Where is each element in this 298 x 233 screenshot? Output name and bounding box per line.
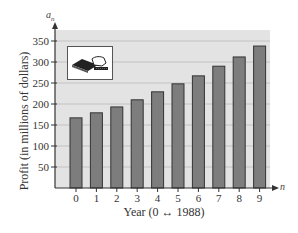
- y-axis-title: Profit (in millions of dollars): [17, 52, 32, 191]
- bar: [172, 84, 184, 188]
- x-tick-label: 6: [196, 192, 202, 204]
- bar: [213, 66, 225, 188]
- y-axis-arrow-icon: [52, 22, 58, 29]
- x-axis-arrow-icon: [272, 185, 279, 191]
- x-tick-label: 9: [257, 192, 263, 204]
- x-tick-label: 2: [114, 192, 120, 204]
- bar: [70, 118, 82, 188]
- bar-chart: 501001502002503003500123456789 an n Prof…: [0, 0, 298, 233]
- plot-area: 501001502002503003500123456789: [0, 0, 298, 233]
- x-axis-symbol: n: [280, 181, 285, 192]
- x-tick-label: 5: [175, 192, 181, 204]
- x-tick-label: 3: [134, 192, 140, 204]
- hand-inserting-card-icon: [68, 47, 112, 79]
- bar: [254, 46, 266, 188]
- x-tick-label: 4: [155, 192, 161, 204]
- x-tick-label: 0: [73, 192, 79, 204]
- y-tick-label: 250: [33, 77, 50, 89]
- x-axis-title: Year (0 ↔ 1988): [123, 205, 204, 220]
- y-axis-symbol: an: [46, 9, 55, 23]
- y-tick-label: 200: [33, 98, 50, 110]
- x-tick-label: 8: [236, 192, 242, 204]
- bar: [152, 92, 164, 188]
- y-tick-label: 150: [33, 119, 50, 131]
- bar: [131, 100, 143, 188]
- y-tick-label: 300: [33, 56, 50, 68]
- bar: [233, 57, 245, 188]
- bar: [90, 113, 102, 188]
- x-tick-label: 1: [94, 192, 100, 204]
- y-tick-label: 350: [33, 35, 50, 47]
- y-tick-label: 100: [33, 140, 50, 152]
- bar: [111, 107, 123, 188]
- bar: [192, 76, 204, 188]
- card-slot-icon-inset: [67, 46, 113, 80]
- y-tick-label: 50: [38, 161, 50, 173]
- x-tick-label: 7: [216, 192, 222, 204]
